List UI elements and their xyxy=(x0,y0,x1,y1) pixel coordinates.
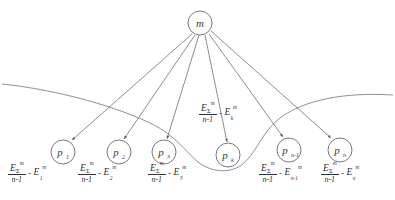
term-superscript: m xyxy=(112,164,116,170)
diagram-canvas: m p 1 p 2 p 3 p k p n-1 p xyxy=(0,0,395,200)
fraction: EΣm n-1 xyxy=(148,163,166,184)
fraction-denominator: n-1 xyxy=(79,175,94,184)
term-subscript: n-1 xyxy=(291,175,298,181)
term-subscript: 2 xyxy=(110,175,113,181)
term-superscript: m xyxy=(42,164,46,170)
formula-p3: EΣm n-1 - E3m xyxy=(148,163,186,184)
node-pk-subscript: k xyxy=(231,157,234,163)
superscript-m: m xyxy=(211,100,215,106)
term-subscript: n xyxy=(353,175,356,181)
node-pn1-label: p xyxy=(281,144,288,156)
fraction: EΣm n-1 xyxy=(78,163,96,184)
node-m[interactable]: m xyxy=(188,11,212,35)
subtracted-term: E3m xyxy=(174,167,187,180)
fraction: EΣm n-1 xyxy=(321,163,339,184)
node-pn-subscript: n xyxy=(343,152,346,158)
minus-operator: - xyxy=(26,169,34,178)
sigma-subscript: Σ xyxy=(86,167,90,174)
superscript-m: m xyxy=(90,160,94,166)
node-p3-subscript: 3 xyxy=(166,154,170,160)
node-p1-circle xyxy=(51,140,75,164)
node-p1-label: p xyxy=(56,146,63,158)
term-subscript: 3 xyxy=(180,175,183,181)
subtracted-term: Ekm xyxy=(225,107,237,120)
edge-m-p1 xyxy=(72,34,192,140)
fraction: EΣm n-1 xyxy=(259,163,277,184)
fraction-denominator: n-1 xyxy=(322,175,337,184)
fraction-numerator: EΣm xyxy=(8,163,26,174)
minus-operator: - xyxy=(96,169,104,178)
fraction-denominator: n-1 xyxy=(260,175,275,184)
formula-p1: EΣm n-1 - E1m xyxy=(8,163,46,184)
node-m-label: m xyxy=(196,17,204,29)
minus-operator: - xyxy=(339,169,347,178)
node-pn1[interactable]: p n-1 xyxy=(277,138,301,162)
edge-m-pk xyxy=(205,35,227,142)
fraction: EΣm n-1 xyxy=(8,163,26,184)
fraction-numerator: EΣm xyxy=(78,163,96,174)
node-pk-label: p xyxy=(221,149,228,161)
minus-operator: - xyxy=(277,169,285,178)
node-pn1-subscript: n-1 xyxy=(291,152,299,158)
formula-pn1: EΣm n-1 - En-1m xyxy=(259,163,302,184)
node-p3-label: p xyxy=(157,146,164,158)
superscript-m: m xyxy=(160,160,164,166)
sigma-subscript: Σ xyxy=(329,167,333,174)
node-pn1-circle xyxy=(277,138,301,162)
superscript-m: m xyxy=(20,160,24,166)
edge-m-p3 xyxy=(167,35,199,139)
node-p3[interactable]: p 3 xyxy=(152,140,176,164)
sigma-subscript: Σ xyxy=(16,167,20,174)
formula-p2: EΣm n-1 - E2m xyxy=(78,163,116,184)
node-pn-circle xyxy=(328,138,352,162)
node-p2-subscript: 2 xyxy=(122,154,125,160)
node-p1-subscript: 1 xyxy=(66,154,69,160)
fraction: EΣm n-1 xyxy=(199,103,217,124)
term-subscript: k xyxy=(231,115,233,121)
superscript-m: m xyxy=(271,160,275,166)
node-pn[interactable]: p n xyxy=(328,138,352,162)
superscript-m: m xyxy=(333,160,337,166)
fraction-numerator: EΣm xyxy=(321,163,339,174)
subtracted-term: E2m xyxy=(104,167,117,180)
minus-operator: - xyxy=(217,109,225,118)
subtracted-term: Enm xyxy=(347,167,360,180)
fraction-denominator: n-1 xyxy=(9,175,24,184)
sigma-subscript: Σ xyxy=(207,107,211,114)
sigma-subscript: Σ xyxy=(267,167,271,174)
fraction-denominator: n-1 xyxy=(200,115,215,124)
fraction-numerator: EΣm xyxy=(259,163,277,174)
subtracted-term: En-1m xyxy=(285,167,302,180)
formula-pn: EΣm n-1 - Enm xyxy=(321,163,359,184)
fraction-numerator: EΣm xyxy=(148,163,166,174)
node-pk[interactable]: p k xyxy=(216,143,240,167)
node-p2[interactable]: p 2 xyxy=(107,140,131,164)
term-superscript: m xyxy=(182,164,186,170)
node-p2-circle xyxy=(107,140,131,164)
formula-pk: EΣm n-1 - Ekm xyxy=(199,103,237,124)
node-p2-label: p xyxy=(112,146,119,158)
node-p3-circle xyxy=(152,140,176,164)
edge-m-p2 xyxy=(124,35,195,139)
node-p1[interactable]: p 1 xyxy=(51,140,75,164)
term-superscript: m xyxy=(298,164,302,170)
node-pn-label: p xyxy=(333,144,340,156)
node-pk-circle xyxy=(216,143,240,167)
fraction-denominator: n-1 xyxy=(149,175,164,184)
subtracted-term: E1m xyxy=(34,167,47,180)
fraction-numerator: EΣm xyxy=(199,103,217,114)
minus-operator: - xyxy=(166,169,174,178)
edge-group xyxy=(72,31,331,142)
term-superscript: m xyxy=(233,104,237,110)
term-superscript: m xyxy=(355,164,359,170)
sigma-subscript: Σ xyxy=(156,167,160,174)
term-subscript: 1 xyxy=(40,175,43,181)
